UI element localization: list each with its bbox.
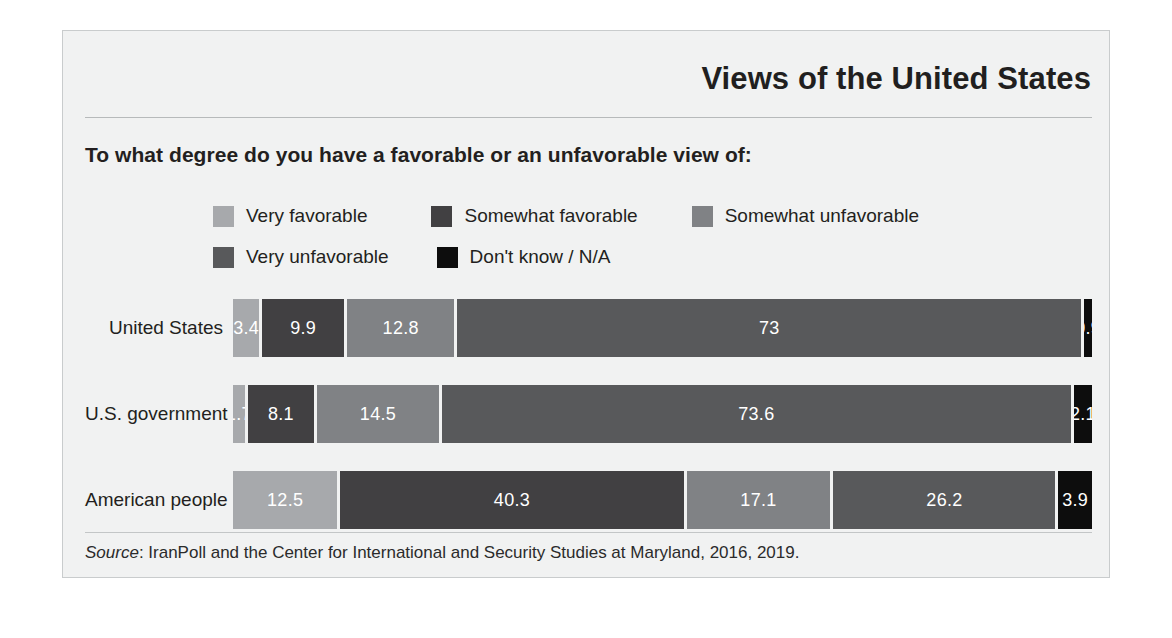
bar-row: United States3.49.912.8730.9 (85, 299, 1092, 357)
source-text: : IranPoll and the Center for Internatio… (139, 543, 800, 562)
bar-segment-value: 0.9 (1084, 318, 1092, 339)
legend-swatch-icon (213, 206, 234, 227)
bar-track: 3.49.912.8730.9 (233, 299, 1092, 357)
bar-segment: 40.3 (340, 471, 686, 529)
bar-segment: 12.5 (233, 471, 340, 529)
bar-segment-value: 12.8 (383, 318, 419, 339)
bar-row: American people12.540.317.126.23.9 (85, 471, 1092, 529)
bar-row-label: American people (85, 489, 233, 511)
bar-segment-value: 73.6 (738, 404, 774, 425)
bar-segment: 73 (457, 299, 1084, 357)
legend-item-somewhat-unfavorable: Somewhat unfavorable (692, 205, 919, 227)
bar-segment-value: 9.9 (290, 318, 316, 339)
chart-question: To what degree do you have a favorable o… (85, 143, 752, 167)
source-label: Source (85, 543, 139, 562)
legend-item-very-favorable: Very favorable (213, 205, 367, 227)
figure-panel: Views of the United States To what degre… (62, 30, 1110, 578)
bar-segment-value: 1.7 (233, 404, 248, 425)
chart-title: Views of the United States (701, 61, 1091, 97)
legend-swatch-icon (213, 247, 234, 268)
bar-segment: 3.9 (1058, 471, 1092, 529)
bar-segment-value: 73 (759, 318, 780, 339)
legend-swatch-icon (692, 206, 713, 227)
bar-segment-value: 17.1 (740, 490, 776, 511)
bar-segment: 73.6 (442, 385, 1074, 443)
bar-segment: 14.5 (317, 385, 442, 443)
bar-segment: 1.7 (233, 385, 248, 443)
chart-legend: Very favorable Somewhat favorable Somewh… (213, 199, 1093, 274)
bar-row: U.S. government1.78.114.573.62.1 (85, 385, 1092, 443)
bar-segment: 0.9 (1084, 299, 1092, 357)
bar-segment-value: 3.4 (233, 318, 259, 339)
source-note: Source: IranPoll and the Center for Inte… (85, 543, 799, 563)
bar-track: 12.540.317.126.23.9 (233, 471, 1092, 529)
bar-segment: 12.8 (347, 299, 457, 357)
legend-item-dont-know: Don't know / N/A (437, 246, 611, 268)
bar-segment: 17.1 (687, 471, 834, 529)
page-root: A Deepening Chasm between Islamic and We… (0, 0, 1172, 638)
legend-item-somewhat-favorable: Somewhat favorable (431, 205, 637, 227)
chart-plot-area: United States3.49.912.8730.9U.S. governm… (85, 299, 1092, 529)
bar-segment-value: 26.2 (926, 490, 962, 511)
bar-segment-value: 8.1 (268, 404, 294, 425)
legend-label: Somewhat unfavorable (725, 205, 919, 227)
legend-label: Very unfavorable (246, 246, 389, 268)
bar-segment: 26.2 (833, 471, 1058, 529)
bar-segment-value: 40.3 (494, 490, 530, 511)
title-divider (85, 117, 1092, 118)
bar-segment-value: 2.1 (1074, 404, 1092, 425)
bar-segment: 2.1 (1074, 385, 1092, 443)
bar-segment-value: 12.5 (267, 490, 303, 511)
bar-track: 1.78.114.573.62.1 (233, 385, 1092, 443)
source-divider (85, 532, 1092, 533)
legend-label: Very favorable (246, 205, 367, 227)
bar-segment: 8.1 (248, 385, 318, 443)
legend-row-1: Very favorable Somewhat favorable Somewh… (213, 199, 1093, 233)
bar-segment: 9.9 (262, 299, 347, 357)
bar-segment: 3.4 (233, 299, 262, 357)
legend-swatch-icon (437, 247, 458, 268)
legend-item-very-unfavorable: Very unfavorable (213, 246, 389, 268)
title-container: Views of the United States (701, 61, 1091, 97)
legend-label: Don't know / N/A (470, 246, 611, 268)
bar-row-label: United States (85, 317, 233, 339)
legend-label: Somewhat favorable (464, 205, 637, 227)
bar-segment-value: 14.5 (360, 404, 396, 425)
legend-swatch-icon (431, 206, 452, 227)
bar-segment-value: 3.9 (1062, 490, 1088, 511)
legend-row-2: Very unfavorable Don't know / N/A (213, 240, 1093, 274)
bar-row-label: U.S. government (85, 403, 233, 425)
